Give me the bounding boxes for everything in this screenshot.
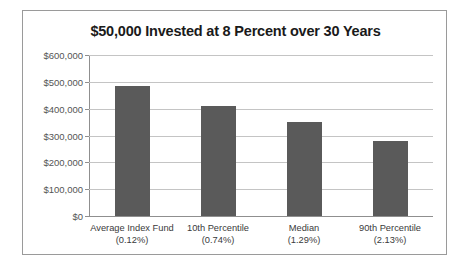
y-axis-tick-mark [85,55,89,56]
plot-area: $0$100,000$200,000$300,000$400,000$500,0… [89,55,433,216]
y-axis-tick-label: $500,000 [43,76,83,87]
x-axis-category-label: Median(1.29%) [288,222,321,246]
chart-frame: $50,000 Invested at 8 Percent over 30 Ye… [22,10,447,255]
category-expense-ratio: (1.29%) [288,234,321,246]
y-axis-tick-mark [85,109,89,110]
y-axis-tick-label: $100,000 [43,184,83,195]
y-axis-tick-mark [85,162,89,163]
gridline [89,55,433,56]
category-name: 10th Percentile [187,223,249,233]
category-expense-ratio: (2.13%) [359,234,421,246]
y-axis-tick-mark [85,216,89,217]
axis-baseline [89,216,433,217]
bar [115,86,150,216]
category-expense-ratio: (0.74%) [187,234,249,246]
y-axis-tick-mark [85,136,89,137]
chart-title: $50,000 Invested at 8 Percent over 30 Ye… [23,23,448,39]
y-axis-tick-mark [85,82,89,83]
category-name: Average Index Fund [90,223,174,233]
y-axis-tick-label: $0 [72,211,83,222]
chart-screenshot: $50,000 Invested at 8 Percent over 30 Ye… [0,0,468,270]
y-axis-tick-label: $300,000 [43,130,83,141]
bar [201,106,236,216]
bar [373,141,408,216]
y-axis-tick-mark [85,189,89,190]
x-axis-category-label: 10th Percentile(0.74%) [187,222,249,246]
x-axis-category-label: 90th Percentile(2.13%) [359,222,421,246]
y-axis-tick-label: $400,000 [43,103,83,114]
category-expense-ratio: (0.12%) [90,234,174,246]
y-axis-tick-label: $200,000 [43,157,83,168]
category-name: Median [289,223,320,233]
bar [287,122,322,216]
x-axis-category-label: Average Index Fund(0.12%) [90,222,174,246]
y-axis-tick-label: $600,000 [43,50,83,61]
gridline [89,82,433,83]
category-name: 90th Percentile [359,223,421,233]
